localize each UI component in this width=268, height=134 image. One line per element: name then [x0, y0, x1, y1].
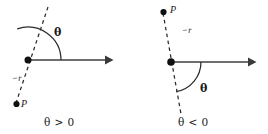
left-point-p-dot: [13, 101, 19, 107]
left-point-p-label: P: [21, 99, 27, 109]
right-axis-arrowhead: [248, 58, 257, 67]
negative-angle-panel: [160, 9, 256, 114]
right-angle-arc: [176, 62, 201, 92]
figure-canvas: [0, 0, 268, 134]
left-theta-label: θ: [54, 27, 61, 38]
left-negative-r-label: −r: [12, 74, 22, 83]
right-point-p-label: P: [170, 5, 176, 15]
right-negative-r-label: −r: [182, 26, 192, 35]
right-point-p-dot: [160, 9, 166, 15]
left-axis-arrowhead: [105, 56, 114, 65]
positive-angle-panel: [13, 7, 113, 107]
left-origin-dot: [25, 57, 32, 64]
left-panel-caption: θ > 0: [44, 117, 74, 128]
left-dashed-ray: [16, 7, 48, 103]
right-panel-caption: θ < 0: [178, 117, 208, 128]
right-theta-label: θ: [200, 83, 207, 94]
angle-sign-convention-figure: θ −r P θ > 0 P −r θ θ < 0: [0, 0, 268, 134]
right-origin-dot: [167, 58, 175, 66]
